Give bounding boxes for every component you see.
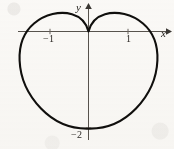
y-axis-arrowhead	[85, 3, 92, 9]
tick-label-y-negative-two: −2	[71, 130, 82, 140]
cardioid-figure: y x −1 1 −2	[0, 0, 174, 149]
tick-label-x-positive-one: 1	[126, 34, 131, 44]
plot-canvas	[0, 0, 174, 149]
x-axis-label: x	[161, 28, 166, 39]
y-axis-label: y	[76, 2, 81, 13]
x-axis-arrowhead	[166, 28, 172, 35]
tick-label-x-negative-one: −1	[43, 34, 54, 44]
